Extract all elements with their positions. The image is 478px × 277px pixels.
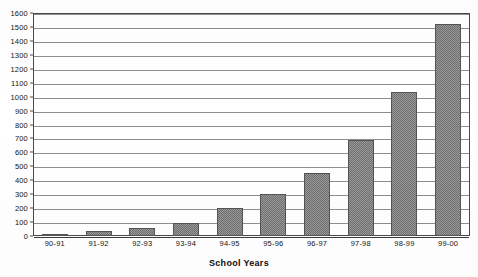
bar[interactable] xyxy=(348,140,374,236)
bar[interactable] xyxy=(129,228,155,236)
bar-slot xyxy=(295,13,339,236)
x-axis-tick-label: 98-99 xyxy=(394,239,414,248)
bar-slot xyxy=(208,13,252,236)
y-axis-tick-label: 300 xyxy=(15,190,28,199)
y-axis-tick-label: 400 xyxy=(15,176,28,185)
gridline xyxy=(34,237,469,238)
y-axis-tick-label: 500 xyxy=(15,162,28,171)
y-axis-tick-label: 100 xyxy=(15,218,28,227)
x-axis-tick-label: 91-92 xyxy=(88,239,108,248)
y-axis-tick-label: 200 xyxy=(15,204,28,213)
bar[interactable] xyxy=(435,24,461,236)
x-axis-tick-label: 90-91 xyxy=(45,239,65,248)
bar[interactable] xyxy=(42,234,68,236)
x-axis-tick-label: 92-93 xyxy=(132,239,152,248)
bar[interactable] xyxy=(391,92,417,236)
x-axis-tick-label: 93-94 xyxy=(176,239,196,248)
bars-group xyxy=(33,13,470,236)
y-axis-tick-label: 0 xyxy=(24,232,28,241)
bar-slot xyxy=(77,13,121,236)
y-axis-tick-label: 700 xyxy=(15,134,28,143)
y-axis-tick-label: 1000 xyxy=(11,92,29,101)
x-axis: 90-9191-9292-9393-9494-9595-9696-9797-98… xyxy=(33,239,470,253)
y-axis-tick-label: 1600 xyxy=(11,9,29,18)
bar-slot xyxy=(339,13,383,236)
y-axis: 0100200300400500600700800900100011001200… xyxy=(0,13,33,236)
bar-slot xyxy=(33,13,77,236)
x-axis-tick-label: 97-98 xyxy=(351,239,371,248)
x-axis-tick-label: 96-97 xyxy=(307,239,327,248)
bar-slot xyxy=(120,13,164,236)
bar-slot xyxy=(383,13,427,236)
bar[interactable] xyxy=(260,194,286,236)
y-axis-tick-label: 800 xyxy=(15,120,28,129)
bar-slot xyxy=(164,13,208,236)
y-axis-tick-label: 1100 xyxy=(11,78,28,87)
x-axis-tick-label: 99-00 xyxy=(438,239,458,248)
y-axis-tick-label: 1300 xyxy=(11,50,29,59)
y-axis-tick-label: 1500 xyxy=(11,22,29,31)
x-axis-tick-label: 94-95 xyxy=(220,239,240,248)
bar-slot xyxy=(426,13,470,236)
bar[interactable] xyxy=(304,173,330,236)
bar-chart: 0100200300400500600700800900100011001200… xyxy=(0,0,478,277)
bar-slot xyxy=(252,13,296,236)
y-axis-tick-label: 1200 xyxy=(11,64,29,73)
y-axis-tick-label: 600 xyxy=(15,148,28,157)
y-axis-tick-label: 900 xyxy=(15,106,28,115)
x-axis-title: School Years xyxy=(0,258,478,268)
bar[interactable] xyxy=(86,231,112,236)
y-axis-tick-label: 1400 xyxy=(11,36,29,45)
bar[interactable] xyxy=(217,208,243,236)
bar[interactable] xyxy=(173,223,199,236)
x-axis-tick-label: 95-96 xyxy=(263,239,283,248)
